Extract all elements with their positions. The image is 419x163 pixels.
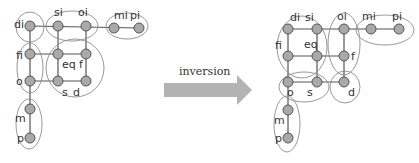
node-di (283, 24, 293, 34)
node-mi (366, 24, 376, 34)
inversion-arrow: inversion (164, 65, 252, 105)
node-s (53, 76, 63, 86)
label-o: o (16, 75, 23, 88)
label-m: m (274, 114, 285, 127)
label-m: m (15, 112, 26, 125)
label-fi: fi (16, 49, 23, 62)
label-oi: oi (337, 10, 347, 23)
label-s: s (62, 86, 68, 99)
node-di (25, 21, 35, 31)
label-di: di (14, 18, 24, 31)
label-pi: pi (130, 9, 140, 22)
label-f: f (79, 58, 84, 71)
label-d: d (348, 86, 355, 99)
node-pi (134, 23, 144, 33)
label-fi: fi (275, 39, 282, 52)
label-mi: mi (362, 10, 376, 23)
arrow-icon (164, 75, 252, 105)
label-si: si (305, 11, 314, 24)
label-pi: pi (392, 10, 402, 23)
node-eq (312, 51, 322, 61)
node-si (312, 24, 322, 34)
node-p (25, 133, 35, 143)
label-oi: oi (78, 6, 88, 19)
node-o (25, 76, 35, 86)
label-p: p (275, 132, 282, 145)
left-lattice: di si oi mi pi fi eq f o s d m p (14, 6, 148, 149)
label-eq: eq (62, 58, 76, 71)
label-eq: eq (304, 38, 318, 51)
node-pi (394, 24, 404, 34)
node-s (312, 77, 322, 87)
node-si (53, 21, 63, 31)
node-fi (283, 51, 293, 61)
label-o: o (287, 86, 294, 99)
node-p (283, 133, 293, 143)
node-fi (25, 49, 35, 59)
label-di: di (290, 11, 300, 24)
node-d (81, 76, 91, 86)
label-mi: mi (114, 9, 128, 22)
node-oi (81, 21, 91, 31)
node-f (339, 51, 349, 61)
node-oi (339, 24, 349, 34)
label-d: d (73, 86, 80, 99)
label-si: si (54, 6, 63, 19)
label-s: s (307, 86, 313, 99)
label-f: f (351, 50, 356, 63)
diagram-canvas: di si oi mi pi fi eq f o s d m p inversi… (0, 0, 419, 163)
node-m (25, 104, 35, 114)
label-p: p (17, 132, 24, 145)
arrow-label: inversion (179, 65, 230, 78)
right-lattice: di si oi mi pi fi eq f o s d m p (274, 10, 414, 152)
node-mi (109, 23, 119, 33)
